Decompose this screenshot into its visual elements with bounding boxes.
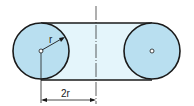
- dimension-label: 2r: [61, 88, 71, 99]
- dimension-arrow-left: [41, 98, 47, 102]
- right-center-point: [150, 49, 154, 53]
- dimension-arrow-right: [90, 98, 96, 102]
- belt-diagram: r 2r: [0, 0, 194, 106]
